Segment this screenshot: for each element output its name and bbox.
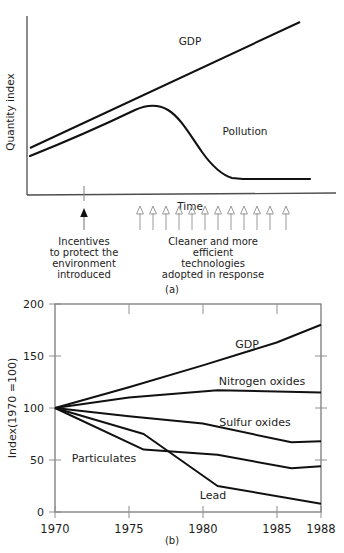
series-line-pollution <box>30 106 310 179</box>
incentives-annotation-line-1: Incentives <box>58 236 109 247</box>
technology-up-arrow-icon <box>137 206 144 230</box>
panel-b-caption: (b) <box>0 535 344 546</box>
panel-b-ytick-0: 0 <box>37 506 44 519</box>
technology-up-arrow-icon <box>150 206 157 230</box>
technology-up-arrow-icon <box>254 206 261 230</box>
panel-b-xtick-1988: 1988 <box>306 522 335 536</box>
technology-arrows-group <box>137 206 290 230</box>
panel-b-xtick-1970: 1970 <box>40 522 69 536</box>
panel-a-svg: Quantity index GDP Pollution Time <box>0 0 344 290</box>
panel-a-y-axis-label: Quantity index <box>4 73 16 150</box>
technologies-annotation-text: Cleaner and more efficient technologies … <box>162 236 264 280</box>
panel-a-x-axis <box>27 193 336 195</box>
incentives-annotation-line-2: to protect the <box>50 247 119 258</box>
incentives-annotation-line-3: environment <box>52 258 116 269</box>
panel-b-y-ticks <box>49 304 327 512</box>
technology-up-arrow-icon <box>228 206 235 230</box>
panel-b-svg: 200 150 100 50 0 1970 1975 1980 1985 198… <box>0 290 344 553</box>
panel-b-ytick-50: 50 <box>30 454 44 467</box>
incentives-up-arrow-icon <box>80 208 88 230</box>
technology-up-arrow-icon <box>267 206 274 230</box>
technologies-annotation-line-3: technologies <box>181 258 245 269</box>
panel-b-index-chart: 200 150 100 50 0 1970 1975 1980 1985 198… <box>0 290 344 553</box>
series-label-sulfur-oxides: Sulfur oxides <box>219 416 291 429</box>
panel-b-y-axis-label: Index(1970 =100) <box>6 358 19 459</box>
panel-b-ytick-100: 100 <box>23 402 44 415</box>
technologies-annotation-line-1: Cleaner and more <box>168 236 258 247</box>
technology-up-arrow-icon <box>283 206 290 230</box>
incentives-annotation-text: Incentives to protect the environment in… <box>50 236 119 280</box>
series-line-gdp <box>55 325 321 408</box>
technology-up-arrow-icon <box>163 206 170 230</box>
panel-a-x-axis-label: Time <box>176 200 203 212</box>
series-label-pollution: Pollution <box>223 125 268 137</box>
series-label-lead: Lead <box>200 489 226 502</box>
series-label-particulates: Particulates <box>72 452 137 465</box>
panel-b-plot-frame <box>55 304 321 512</box>
panel-b-ytick-150: 150 <box>23 350 44 363</box>
technology-up-arrow-icon <box>215 206 222 230</box>
incentives-annotation-line-4: introduced <box>57 269 111 280</box>
panel-b-xtick-1980: 1980 <box>188 522 217 536</box>
panel-b-series-lines <box>55 325 321 504</box>
series-label-gdp: GDP <box>235 338 259 351</box>
panel-b-x-ticks <box>55 304 321 518</box>
technologies-annotation-line-4: adopted in response <box>162 269 264 280</box>
technologies-annotation-line-2: efficient <box>193 247 234 258</box>
panel-b-ytick-200: 200 <box>23 298 44 311</box>
technology-up-arrow-icon <box>241 206 248 230</box>
panel-b-xtick-1975: 1975 <box>114 522 143 536</box>
panel-a-conceptual-chart: Quantity index GDP Pollution Time <box>0 0 344 290</box>
series-label-gdp: GDP <box>179 35 202 47</box>
series-line-nitrogen-oxides <box>55 390 321 408</box>
series-label-nitrogen-oxides: Nitrogen oxides <box>219 375 306 388</box>
panel-b-xtick-1985: 1985 <box>262 522 291 536</box>
